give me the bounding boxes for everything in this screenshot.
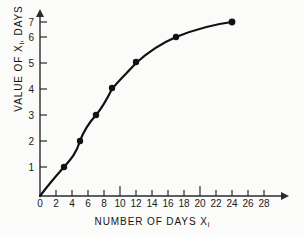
x-axis-title-text: NUMBER OF DAYS X <box>95 216 208 227</box>
data-point <box>93 112 99 118</box>
data-curve <box>40 22 232 196</box>
data-point-markers <box>61 19 236 171</box>
x-tick-label-6: 6 <box>85 198 91 209</box>
x-tick-label-2: 2 <box>53 198 59 209</box>
x-tick-label-18: 18 <box>178 198 189 209</box>
y-tick-label-1: 1 <box>22 162 34 173</box>
data-point <box>229 19 236 26</box>
data-point <box>61 164 67 170</box>
data-point <box>77 138 83 144</box>
y-axis-ticks <box>40 22 47 167</box>
x-tick-label-24: 24 <box>226 198 237 209</box>
x-tick-label-10: 10 <box>114 198 125 209</box>
x-axis-ticks <box>56 186 264 196</box>
x-tick-label-16: 16 <box>162 198 173 209</box>
data-point <box>133 59 139 65</box>
x-tick-label-12: 12 <box>130 198 141 209</box>
x-tick-label-8: 8 <box>101 198 107 209</box>
x-tick-label-20: 20 <box>194 198 205 209</box>
x-tick-label-22: 22 <box>210 198 221 209</box>
x-tick-label-4: 4 <box>69 198 75 209</box>
x-tick-label-26: 26 <box>242 198 253 209</box>
chart-figure: 1 2 3 4 5 6 7 0 2 4 6 8 10 12 14 16 18 2… <box>0 0 304 235</box>
y-axis-title-text: VALUE OF X <box>13 44 24 111</box>
x-axis-title: NUMBER OF DAYS Xi <box>0 216 304 229</box>
x-axis-title-subscript: i <box>208 220 210 229</box>
x-tick-label-0: 0 <box>37 198 43 209</box>
data-point <box>109 85 115 91</box>
y-axis-title-subscript: i <box>17 43 26 45</box>
data-point <box>173 34 179 40</box>
x-tick-label-28: 28 <box>258 198 269 209</box>
x-tick-label-14: 14 <box>146 198 157 209</box>
y-axis-title: VALUE OF Xi, DAYS <box>13 0 26 134</box>
y-tick-label-2: 2 <box>22 136 34 147</box>
y-axis-title-suffix: , DAYS <box>13 5 24 42</box>
